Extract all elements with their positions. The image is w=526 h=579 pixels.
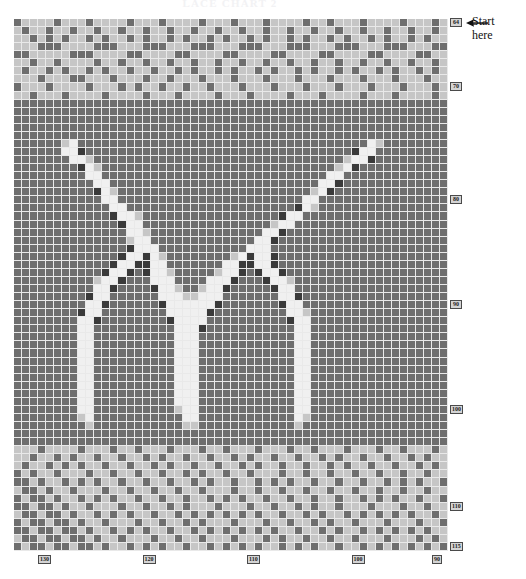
chart-cell bbox=[215, 519, 223, 527]
chart-cell bbox=[38, 478, 46, 486]
chart-cell bbox=[94, 349, 102, 357]
chart-cell bbox=[360, 374, 368, 382]
chart-cell bbox=[408, 221, 416, 229]
chart-cell bbox=[392, 414, 400, 422]
chart-cell bbox=[175, 325, 183, 333]
chart-cell bbox=[327, 132, 335, 140]
chart-cell bbox=[159, 390, 167, 398]
chart-cell bbox=[376, 398, 384, 406]
chart-cell bbox=[191, 245, 199, 253]
chart-cell bbox=[70, 148, 78, 156]
chart-cell bbox=[62, 285, 70, 293]
chart-cell bbox=[432, 92, 440, 100]
chart-cell bbox=[392, 75, 400, 83]
chart-cell bbox=[175, 212, 183, 220]
chart-cell bbox=[416, 204, 424, 212]
chart-cell bbox=[319, 438, 327, 446]
chart-cell bbox=[30, 27, 38, 35]
chart-cell bbox=[239, 212, 247, 220]
chart-cell bbox=[30, 285, 38, 293]
chart-cell bbox=[255, 229, 263, 237]
chart-cell bbox=[432, 237, 440, 245]
chart-cell bbox=[239, 454, 247, 462]
chart-cell bbox=[215, 108, 223, 116]
chart-cell bbox=[86, 140, 94, 148]
chart-cell bbox=[327, 59, 335, 67]
chart-cell bbox=[432, 478, 440, 486]
chart-cell bbox=[255, 51, 263, 59]
chart-cell bbox=[400, 470, 408, 478]
chart-cell bbox=[167, 237, 175, 245]
chart-cell bbox=[22, 519, 30, 527]
chart-cell bbox=[70, 317, 78, 325]
chart-cell bbox=[287, 527, 295, 535]
chart-cell bbox=[392, 487, 400, 495]
chart-cell bbox=[30, 317, 38, 325]
chart-cell bbox=[239, 366, 247, 374]
chart-cell bbox=[215, 349, 223, 357]
chart-cell bbox=[239, 253, 247, 261]
chart-cell bbox=[360, 422, 368, 430]
chart-cell bbox=[118, 92, 126, 100]
chart-cell bbox=[231, 180, 239, 188]
chart-cell bbox=[199, 519, 207, 527]
chart-cell bbox=[368, 406, 376, 414]
chart-cell bbox=[400, 374, 408, 382]
chart-cell bbox=[143, 495, 151, 503]
chart-cell bbox=[54, 221, 62, 229]
chart-cell bbox=[86, 237, 94, 245]
chart-cell bbox=[392, 172, 400, 180]
chart-cell bbox=[311, 43, 319, 51]
chart-cell bbox=[360, 132, 368, 140]
chart-cell bbox=[46, 358, 54, 366]
chart-cell bbox=[400, 35, 408, 43]
chart-cell bbox=[191, 204, 199, 212]
chart-cell bbox=[287, 374, 295, 382]
chart-cell bbox=[30, 140, 38, 148]
chart-cell bbox=[360, 277, 368, 285]
chart-cell bbox=[127, 204, 135, 212]
chart-cell bbox=[30, 172, 38, 180]
chart-cell bbox=[223, 422, 231, 430]
chart-cell bbox=[62, 67, 70, 75]
chart-cell bbox=[191, 285, 199, 293]
chart-cell bbox=[360, 301, 368, 309]
chart-cell bbox=[416, 478, 424, 486]
chart-cell bbox=[287, 398, 295, 406]
chart-cell bbox=[408, 535, 416, 543]
chart-cell bbox=[22, 478, 30, 486]
chart-cell bbox=[384, 229, 392, 237]
chart-cell bbox=[376, 285, 384, 293]
chart-cell bbox=[360, 535, 368, 543]
chart-cell bbox=[231, 285, 239, 293]
chart-cell bbox=[86, 245, 94, 253]
chart-cell bbox=[360, 438, 368, 446]
chart-cell bbox=[62, 148, 70, 156]
chart-cell bbox=[360, 543, 368, 551]
chart-cell bbox=[135, 43, 143, 51]
chart-cell bbox=[400, 83, 408, 91]
chart-cell bbox=[207, 140, 215, 148]
chart-cell bbox=[408, 124, 416, 132]
chart-cell bbox=[30, 333, 38, 341]
chart-cell bbox=[231, 470, 239, 478]
chart-cell bbox=[344, 309, 352, 317]
chart-cell bbox=[127, 333, 135, 341]
chart-cell bbox=[207, 414, 215, 422]
chart-cell bbox=[215, 180, 223, 188]
chart-cell bbox=[287, 164, 295, 172]
chart-cell bbox=[287, 277, 295, 285]
chart-cell bbox=[110, 349, 118, 357]
chart-cell bbox=[416, 188, 424, 196]
chart-cell bbox=[38, 470, 46, 478]
chart-cell bbox=[311, 92, 319, 100]
chart-cell bbox=[255, 454, 263, 462]
chart-cell bbox=[54, 237, 62, 245]
chart-cell bbox=[440, 422, 448, 430]
chart-cell bbox=[416, 446, 424, 454]
chart-cell bbox=[416, 19, 424, 27]
chart-cell bbox=[223, 75, 231, 83]
chart-cell bbox=[94, 261, 102, 269]
chart-cell bbox=[135, 277, 143, 285]
chart-cell bbox=[14, 438, 22, 446]
